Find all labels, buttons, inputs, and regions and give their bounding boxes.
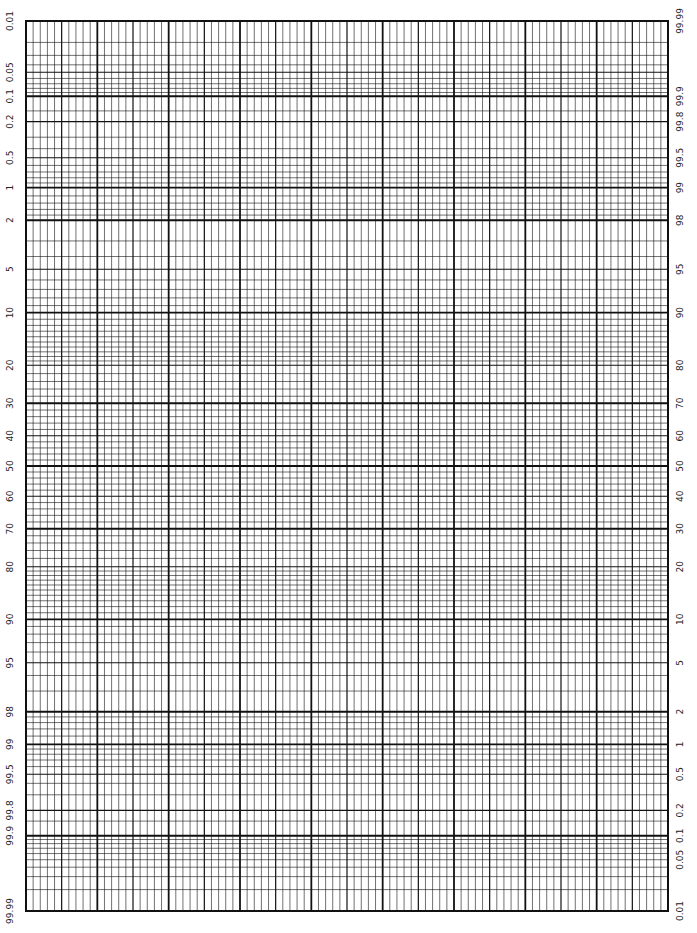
right-axis-label: 40 [675, 490, 685, 502]
left-axis-label: 99 [5, 738, 15, 750]
right-axis-label: 60 [675, 430, 685, 442]
left-axis-label: 0.1 [5, 89, 15, 103]
right-axis-label: 0.01 [675, 901, 685, 921]
left-axis-label: 1 [5, 185, 15, 191]
left-axis-label: 20 [5, 359, 15, 371]
right-probability-axis: 99.9999.999.899.599989590807060504030201… [675, 8, 685, 921]
left-axis-label: 70 [5, 523, 15, 535]
right-axis-label: 80 [675, 359, 685, 371]
left-axis-label: 2 [5, 217, 15, 223]
left-axis-label: 0.05 [5, 62, 15, 82]
right-axis-label: 1 [675, 741, 685, 747]
left-axis-label: 0.01 [5, 11, 15, 31]
left-axis-label: 98 [5, 706, 15, 718]
right-axis-label: 99 [675, 182, 685, 194]
left-axis-label: 5 [5, 266, 15, 272]
left-axis-label: 30 [5, 397, 15, 409]
right-axis-label: 90 [675, 307, 685, 319]
right-axis-label: 0.5 [675, 767, 685, 781]
left-axis-label: 99.8 [5, 800, 15, 820]
right-axis-label: 20 [675, 561, 685, 573]
probability-graph-paper: 0.010.050.10.20.512510203040506070809095… [0, 0, 697, 933]
left-axis-label: 95 [5, 657, 15, 668]
right-axis-label: 95 [675, 263, 685, 274]
left-axis-label: 99.5 [5, 764, 15, 784]
left-axis-label: 0.5 [5, 151, 15, 165]
left-axis-label: 80 [5, 561, 15, 573]
right-axis-label: 5 [675, 660, 685, 666]
right-axis-label: 2 [675, 709, 685, 715]
left-axis-label: 40 [5, 430, 15, 442]
left-axis-label: 10 [5, 307, 15, 319]
left-axis-label: 99.9 [5, 825, 15, 845]
right-axis-label: 98 [675, 214, 685, 226]
left-axis-label: 90 [5, 613, 15, 625]
right-axis-label: 0.2 [675, 803, 685, 817]
left-axis-label: 60 [5, 490, 15, 502]
right-axis-label: 99.8 [675, 111, 685, 131]
right-axis-label: 99.5 [675, 148, 685, 168]
right-axis-label: 50 [675, 460, 685, 472]
left-probability-axis: 0.010.050.10.20.512510203040506070809095… [5, 11, 15, 924]
right-axis-label: 70 [675, 397, 685, 409]
left-axis-label: 50 [5, 460, 15, 472]
left-axis-label: 99.99 [5, 898, 15, 924]
right-axis-label: 0.05 [675, 850, 685, 870]
right-axis-label: 10 [675, 613, 685, 625]
right-axis-label: 0.1 [675, 829, 685, 843]
right-axis-label: 99.9 [675, 86, 685, 106]
right-axis-label: 30 [675, 523, 685, 535]
right-axis-label: 99.99 [675, 8, 685, 34]
left-axis-label: 0.2 [5, 114, 15, 128]
